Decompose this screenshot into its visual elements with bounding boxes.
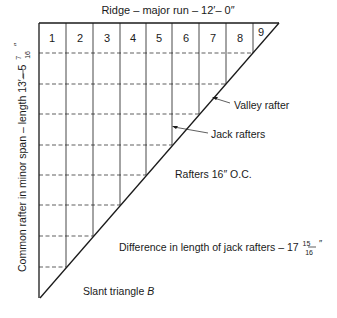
svg-text:5: 5 <box>156 32 162 44</box>
ridge-title: Ridge – major run – 12′– 0″ <box>101 4 234 16</box>
svg-text:3: 3 <box>104 32 110 44</box>
rafter-numbers: 1 2 3 4 5 6 7 8 9 <box>49 26 264 44</box>
svg-text:6: 6 <box>183 32 189 44</box>
valley-rafter-line <box>40 23 279 298</box>
svg-text:7: 7 <box>210 32 216 44</box>
svg-text:Valley rafter: Valley rafter <box>234 99 290 111</box>
svg-text:9: 9 <box>258 26 264 38</box>
common-rafter-label: Common rafter in minor span – length 13′… <box>11 42 32 272</box>
difference-label: Difference in length of jack rafters – 1… <box>119 236 323 257</box>
slant-triangle <box>39 23 279 298</box>
svg-text:1: 1 <box>49 32 55 44</box>
svg-text:8: 8 <box>237 32 243 44</box>
slant-triangle-label: Slant triangle B <box>83 285 154 297</box>
svg-text:2: 2 <box>77 32 83 44</box>
valley-rafter-callout: Valley rafter <box>212 97 290 111</box>
svg-text:4: 4 <box>130 32 136 44</box>
svg-text:Jack rafters: Jack rafters <box>211 128 265 140</box>
svg-text:Common rafter in minor span –: Common rafter in minor span – length 13′… <box>11 42 32 272</box>
rafter-layout-diagram: Ridge – major run – 12′– 0″ Common rafte… <box>0 0 337 318</box>
jack-rafters-callout: Jack rafters <box>172 126 265 140</box>
rafter-spacing-label: Rafters 16″ O.C. <box>175 168 252 180</box>
